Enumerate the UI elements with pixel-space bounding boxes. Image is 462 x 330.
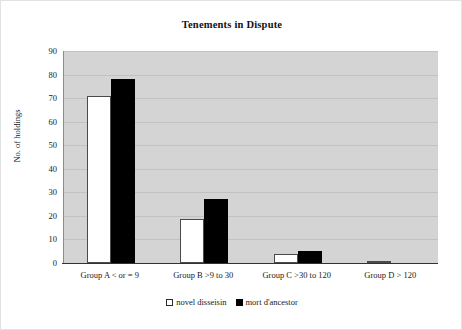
y-axis-tick-label: 30 bbox=[7, 188, 57, 197]
x-axis-tick-label-group-1: Group A < or = 9 bbox=[63, 269, 157, 281]
legend-label: novel disseisin bbox=[176, 297, 226, 307]
y-axis-tick-label: 60 bbox=[7, 118, 57, 127]
plot-area bbox=[63, 51, 438, 263]
x-axis-line bbox=[62, 263, 438, 264]
y-axis-tick-label: 80 bbox=[7, 71, 57, 80]
legend-label: mort d'ancestor bbox=[246, 297, 298, 307]
y-axis-tick-label: 20 bbox=[7, 212, 57, 221]
filled-square-icon bbox=[236, 299, 243, 306]
chart-title: Tenements in Dispute bbox=[1, 19, 462, 30]
y-axis-tick-label: 50 bbox=[7, 141, 57, 150]
chart-figure: Tenements in Dispute No. of holdings 908… bbox=[0, 0, 462, 330]
x-axis-tick-label-group-3: Group C >30 to 120 bbox=[250, 269, 344, 281]
gridline bbox=[64, 51, 438, 52]
y-axis-tick-label: 10 bbox=[7, 235, 57, 244]
y-axis-tick-labels: 9080706050403020100 bbox=[1, 1, 57, 330]
x-axis-tick-label-group-2: Group B >9 to 30 bbox=[157, 269, 251, 281]
y-axis-tick-label: 40 bbox=[7, 165, 57, 174]
x-axis-tick-label-group-4: Group D > 120 bbox=[344, 269, 438, 281]
x-axis-tick-labels: Group A < or = 9Group B >9 to 30Group C … bbox=[63, 269, 437, 287]
chart-legend: novel disseisinmort d'ancestor bbox=[1, 297, 462, 307]
bar-mort-dancestor-group-2 bbox=[204, 199, 228, 263]
bar-mort-dancestor-group-1 bbox=[111, 79, 135, 263]
open-square-icon bbox=[166, 299, 173, 306]
y-axis-tick-label: 70 bbox=[7, 94, 57, 103]
bar-mort-dancestor-group-3 bbox=[298, 251, 322, 263]
legend-entry-mort-dancestor[interactable]: mort d'ancestor bbox=[236, 297, 298, 307]
y-axis-tick-label: 0 bbox=[7, 259, 57, 268]
gridline bbox=[64, 75, 438, 76]
legend-entry-novel-disseisin[interactable]: novel disseisin bbox=[166, 297, 226, 307]
y-axis-tick-label: 90 bbox=[7, 47, 57, 56]
bar-novel-disseisin-group-3 bbox=[274, 254, 298, 263]
bar-novel-disseisin-group-2 bbox=[180, 219, 204, 263]
bar-novel-disseisin-group-1 bbox=[87, 96, 111, 263]
